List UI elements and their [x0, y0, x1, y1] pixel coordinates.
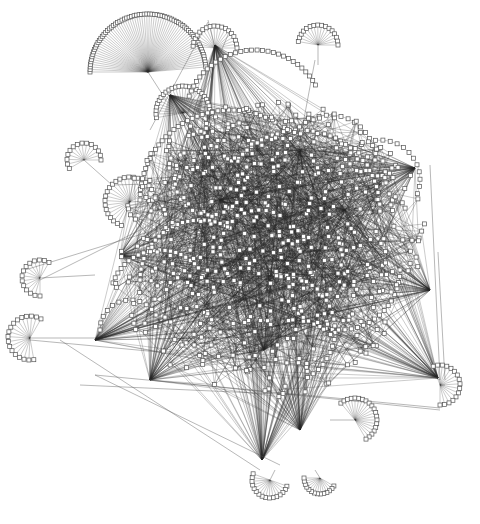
graph-node — [220, 260, 224, 264]
graph-node — [185, 366, 189, 370]
graph-node — [302, 476, 306, 480]
graph-node — [293, 130, 297, 134]
graph-node — [181, 121, 185, 125]
graph-node — [327, 381, 331, 385]
graph-node — [372, 279, 376, 283]
graph-node — [260, 138, 264, 142]
graph-node — [207, 156, 211, 160]
graph-node — [346, 192, 350, 196]
graph-node — [200, 112, 204, 116]
graph-node — [153, 196, 157, 200]
graph-node — [319, 207, 323, 211]
graph-node — [119, 224, 123, 228]
graph-node — [300, 66, 304, 70]
graph-node — [370, 174, 374, 178]
graph-node — [339, 263, 343, 267]
graph-node — [416, 192, 420, 196]
graph-node — [144, 196, 148, 200]
graph-node — [368, 237, 372, 241]
graph-node — [225, 221, 229, 225]
graph-node — [174, 251, 178, 255]
graph-node — [299, 132, 303, 136]
graph-node — [371, 344, 375, 348]
graph-node — [353, 361, 357, 365]
edge — [84, 160, 112, 185]
edge — [412, 168, 415, 240]
graph-node — [327, 212, 331, 216]
graph-node — [325, 293, 329, 297]
graph-node — [276, 101, 280, 105]
graph-node — [392, 224, 396, 228]
graph-node — [168, 281, 172, 285]
graph-node — [138, 273, 142, 277]
graph-node — [104, 208, 108, 212]
graph-node — [172, 128, 176, 132]
graph-node — [438, 403, 442, 407]
graph-node — [198, 322, 202, 326]
graph-node — [154, 147, 158, 151]
graph-node — [314, 83, 318, 87]
graph-node — [358, 349, 362, 353]
edge — [67, 160, 84, 164]
graph-node — [316, 171, 320, 175]
graph-node — [271, 349, 275, 353]
graph-node — [153, 297, 157, 301]
graph-node — [391, 270, 395, 274]
graph-node — [365, 163, 369, 167]
graph-node — [20, 316, 24, 320]
graph-node — [269, 281, 273, 285]
graph-node — [384, 272, 388, 276]
graph-node — [171, 262, 175, 266]
graph-node — [190, 292, 194, 296]
graph-node — [149, 152, 153, 156]
graph-node — [382, 309, 386, 313]
graph-node — [458, 387, 462, 391]
graph-node — [232, 278, 236, 282]
graph-node — [239, 207, 243, 211]
graph-node — [201, 71, 205, 75]
graph-node — [209, 63, 213, 67]
graph-node — [321, 107, 325, 111]
graph-node — [272, 251, 276, 255]
graph-node — [395, 142, 399, 146]
graph-node — [285, 361, 289, 365]
graph-node — [396, 165, 400, 169]
graph-node — [312, 23, 316, 27]
graph-node — [162, 208, 166, 212]
graph-node — [378, 209, 382, 213]
graph-node — [239, 266, 243, 270]
graph-node — [169, 156, 173, 160]
graph-node — [99, 321, 103, 325]
graph-node — [22, 284, 26, 288]
graph-node — [393, 195, 397, 199]
graph-node — [384, 181, 388, 185]
graph-node — [416, 197, 420, 201]
graph-node — [253, 259, 257, 263]
graph-node — [316, 367, 320, 371]
graph-node — [386, 304, 390, 308]
graph-node — [211, 165, 215, 169]
edges-layer — [8, 14, 460, 498]
graph-node — [282, 54, 286, 58]
graph-node — [365, 155, 369, 159]
graph-node — [231, 322, 235, 326]
graph-node — [168, 162, 172, 166]
graph-node — [89, 143, 93, 147]
graph-node — [259, 162, 263, 166]
graph-node — [263, 115, 267, 119]
graph-node — [195, 79, 199, 83]
edge — [30, 338, 34, 360]
graph-node — [98, 328, 102, 332]
graph-node — [202, 242, 206, 246]
graph-node — [250, 479, 254, 483]
graph-node — [235, 46, 239, 50]
graph-node — [355, 287, 359, 291]
graph-node — [304, 70, 308, 74]
graph-node — [211, 250, 215, 254]
graph-node — [276, 164, 280, 168]
graph-node — [104, 194, 108, 198]
graph-node — [205, 268, 209, 272]
graph-node — [231, 204, 235, 208]
graph-node — [204, 26, 208, 30]
graph-node — [191, 44, 195, 48]
